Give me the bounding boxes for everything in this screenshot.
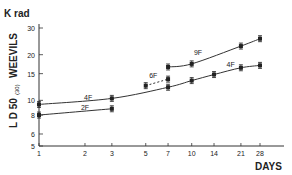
y-tick-label: 6 <box>31 131 35 138</box>
x-tick-label: 1 <box>37 150 41 157</box>
x-tick-label: 7 <box>166 150 170 157</box>
x-tick-label: 3 <box>110 150 114 157</box>
x-tick-label: 14 <box>210 150 218 157</box>
y-unit-label: K rad <box>4 8 30 19</box>
series-annotation: 4F <box>227 61 235 68</box>
series-line-9F <box>168 39 260 67</box>
x-tick-label: 21 <box>237 150 245 157</box>
x-tick-label: 2 <box>83 150 87 157</box>
y-axis-label-ld50: L D 50 <box>8 98 19 128</box>
y-tick-label: 20 <box>27 52 35 59</box>
series-annotation: 9F <box>194 49 202 56</box>
series-line-2F <box>39 109 112 115</box>
ld50-weevils-chart: 568101520301235710142128 2F4F6F9F4F K ra… <box>0 0 292 175</box>
y-tick-label: 15 <box>27 71 35 78</box>
series-line-6F <box>146 79 168 86</box>
series-annotation: 4F <box>84 94 92 101</box>
y-tick-label: 8 <box>31 112 35 119</box>
annotations: 2F4F6F9F4F <box>81 49 235 111</box>
series-annotation: 6F <box>149 72 157 79</box>
series-annotation: 2F <box>81 104 89 111</box>
y-tick-label: 30 <box>27 25 35 32</box>
x-tick-label: 5 <box>144 150 148 157</box>
x-tick-label: 28 <box>256 150 264 157</box>
y-axis-label-weevils: WEEVILS <box>8 33 19 78</box>
y-tick-label: 5 <box>31 143 35 150</box>
y-axis-label-sub: (30) <box>14 84 20 95</box>
y-tick-label: 10 <box>27 97 35 104</box>
x-axis-label: DAYS <box>255 161 282 172</box>
x-tick-label: 10 <box>188 150 196 157</box>
